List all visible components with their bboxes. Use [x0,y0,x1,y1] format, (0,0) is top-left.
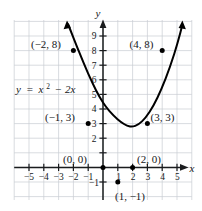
x-tick-label: −3 [54,172,64,182]
y-tick-label: 2 [92,134,97,144]
data-point [130,165,135,170]
point-label-2-0: (2, 0) [137,153,161,166]
x-tick-label: −4 [39,172,49,182]
y-tick-label: 4 [92,104,97,114]
x-tick-label: 4 [160,172,165,182]
y-axis-label: y [95,7,101,19]
data-point [86,121,91,126]
y-tick-label: 9 [92,31,97,41]
x-tick-label: −2 [68,172,78,182]
coordinate-plane: −5 −4 −3 −2 −1 1 2 3 4 5 9 8 7 6 5 4 3 2… [0,0,202,211]
parabola-figure: −5 −4 −3 −2 −1 1 2 3 4 5 9 8 7 6 5 4 3 2… [0,0,202,211]
y-tick-label: −1 [89,178,99,188]
data-point [115,180,120,185]
equation-equals: = [27,83,33,95]
y-tick-label: 3 [92,119,97,129]
data-point [160,48,165,53]
x-tick-label: −5 [24,172,34,182]
equation-x: x [38,83,44,95]
point-label-0-0: (0, 0) [63,153,87,166]
point-label-4-8: (4, 8) [130,38,154,51]
equation-exponent: 2 [46,82,50,91]
x-tick-label: 5 [175,172,180,182]
point-label-neg1-3: (−1, 3) [45,111,75,124]
data-point [145,121,150,126]
equation-y: y [15,83,21,95]
point-label-1-neg1: (1, −1) [115,190,145,203]
x-tick-label: 2 [131,172,136,182]
data-point [101,165,106,170]
point-label-neg2-8: (−2, 8) [31,38,61,51]
y-tick-label: 8 [92,46,97,56]
data-point [71,48,76,53]
x-axis-label: x [189,162,195,174]
equation-minus-term: − 2x [55,83,76,95]
x-tick-label: 3 [146,172,151,182]
point-label-3-3: (3, 3) [151,111,175,124]
y-tick-label: 7 [92,61,97,71]
